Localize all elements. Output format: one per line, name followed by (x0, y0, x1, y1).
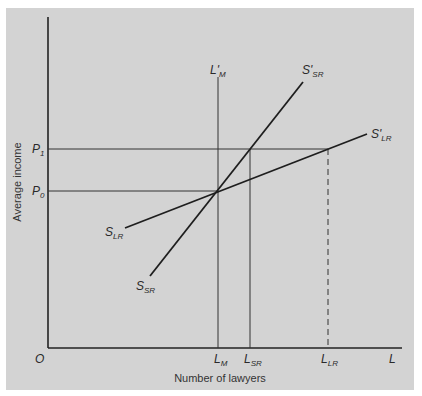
x-end-label: L (389, 352, 396, 366)
s-lr-label: SLR (105, 225, 123, 241)
s-sr-prime-label: S'SR (302, 63, 324, 79)
x-axis-title: Number of lawyers (174, 372, 266, 384)
llr-label: LLR (321, 352, 338, 368)
short-run-supply-curve (150, 82, 303, 276)
origin-label: O (35, 352, 44, 366)
lm-label: LM (214, 352, 228, 368)
p0-label: P0 (32, 184, 45, 200)
lsr-label: LSR (244, 352, 262, 368)
lm-prime-label: L'M (210, 63, 226, 79)
s-lr-prime-label: S'LR (371, 127, 392, 143)
s-sr-label: SSR (136, 279, 155, 295)
y-axis-title: Average income (11, 142, 23, 221)
long-run-supply-curve (125, 134, 367, 228)
supply-diagram: P1 P0 O L LM LSR LLR L'M S'SR S'LR SLR S… (0, 0, 422, 396)
p1-label: P1 (32, 142, 44, 158)
